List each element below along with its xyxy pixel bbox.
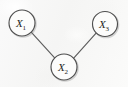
- node-x3-label-subscript: 3: [106, 25, 110, 33]
- edge-x1-x2: [31, 32, 55, 58]
- node-x2-label-subscript: 2: [65, 68, 69, 76]
- edge-x2-x3: [74, 33, 97, 59]
- node-x1[interactable]: X1: [9, 10, 36, 37]
- node-x3[interactable]: X3: [93, 12, 119, 38]
- node-x1-label-subscript: 1: [23, 24, 27, 32]
- node-x2[interactable]: X2: [51, 54, 78, 81]
- graph-figure: X1 X2 X3: [0, 0, 128, 87]
- graph-canvas: X1 X2 X3: [0, 0, 128, 87]
